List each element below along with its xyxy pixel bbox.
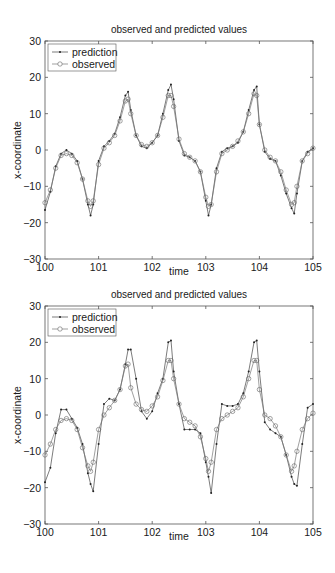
y-tick-label: 30 — [29, 300, 41, 312]
x-tick-label: 101 — [90, 261, 108, 273]
x-tick-label: 104 — [251, 526, 269, 538]
plot-area — [45, 41, 313, 259]
x-tick-label: 102 — [143, 261, 161, 273]
y-tick-label: −10 — [23, 445, 41, 457]
figure: observed and predicted values3020100−10−… — [0, 0, 335, 573]
y-tick-label: 10 — [29, 373, 41, 385]
x-axis-label: time — [169, 530, 189, 542]
legend-observed-label: observed — [72, 58, 115, 70]
x-axis-label: time — [169, 265, 189, 277]
x-tick-label: 105 — [304, 526, 322, 538]
x-tick-label: 101 — [90, 526, 108, 538]
x-tick-label: 102 — [143, 526, 161, 538]
x-tick-label: 100 — [36, 261, 54, 273]
x-tick-label: 100 — [36, 526, 54, 538]
x-tick-label: 104 — [251, 261, 269, 273]
y-tick-label: 30 — [29, 35, 41, 47]
chart-title: observed and predicted values — [111, 24, 247, 35]
y-tick-label: −20 — [23, 217, 41, 229]
legend-prediction-label: prediction — [72, 46, 118, 58]
y-tick-label: −20 — [23, 482, 41, 494]
chart-1: observed and predicted values3020100−10−… — [11, 24, 322, 277]
x-tick-label: 103 — [197, 261, 215, 273]
series-observed — [43, 358, 315, 473]
chart-2: observed and predicted values3020100−10−… — [11, 289, 322, 542]
x-tick-label: 105 — [304, 261, 322, 273]
legend-observed-label: observed — [72, 323, 115, 335]
y-tick-label: 20 — [29, 71, 41, 83]
legend-prediction-label: prediction — [72, 311, 118, 323]
chart-title: observed and predicted values — [111, 289, 247, 300]
series-prediction — [44, 84, 314, 217]
y-axis-label: x-coordinate — [11, 121, 23, 179]
y-tick-label: 20 — [29, 336, 41, 348]
y-tick-label: −10 — [23, 180, 41, 192]
x-tick-label: 103 — [197, 526, 215, 538]
legend: predictionobserved — [48, 44, 118, 71]
y-tick-label: 0 — [35, 409, 41, 421]
y-tick-label: 0 — [35, 144, 41, 156]
series-observed — [43, 91, 315, 208]
plot-area — [45, 306, 313, 524]
legend: predictionobserved — [48, 309, 118, 336]
series-prediction — [44, 340, 314, 495]
y-tick-label: 10 — [29, 108, 41, 120]
y-axis-label: x-coordinate — [11, 386, 23, 444]
